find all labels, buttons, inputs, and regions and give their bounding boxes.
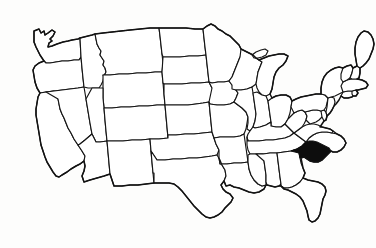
state-indiana[interactable] <box>253 92 271 128</box>
us-map[interactable] <box>0 0 376 248</box>
state-colorado[interactable] <box>104 105 168 141</box>
state-montana[interactable] <box>95 28 163 76</box>
state-pennsylvania[interactable] <box>291 94 328 113</box>
state-wyoming[interactable] <box>103 72 165 108</box>
map-page <box>0 0 376 248</box>
state-new-mexico[interactable] <box>107 139 154 186</box>
state-south-dakota[interactable] <box>162 55 209 84</box>
state-north-dakota[interactable] <box>159 28 206 57</box>
